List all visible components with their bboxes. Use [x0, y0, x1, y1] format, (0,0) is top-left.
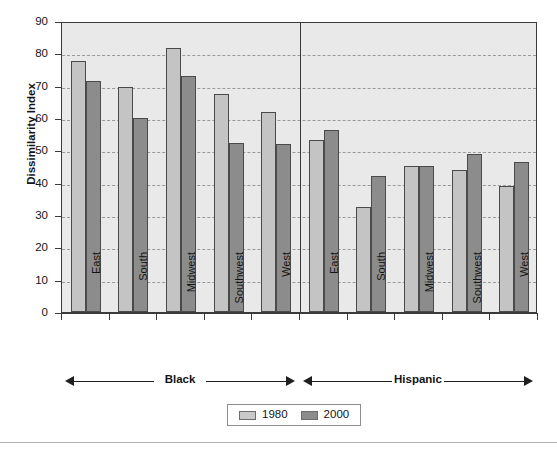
y-axis-tick-label: 10 — [8, 275, 48, 287]
arrow-right-icon — [524, 376, 533, 386]
x-axis-tick — [537, 313, 538, 320]
legend-item: 1980 — [239, 409, 288, 421]
bar-1980-south-hispanic — [356, 207, 371, 312]
bracket-line-left — [312, 381, 392, 382]
x-axis-tick — [489, 313, 490, 320]
y-axis-tick-label: 90 — [8, 16, 48, 28]
legend-label: 2000 — [324, 409, 350, 421]
x-axis-label-midwest-black: Midwest — [185, 252, 197, 322]
bar-1980-west-black — [261, 112, 276, 312]
x-axis-label-south-hispanic: South — [375, 252, 387, 322]
bar-1980-southwest-black — [214, 94, 229, 312]
y-axis-tick — [55, 216, 62, 217]
x-axis-tick — [61, 313, 62, 320]
y-axis-tick — [55, 119, 62, 120]
group-bracket-hispanic: Hispanic — [0, 372, 557, 392]
y-axis-title: Dissimilarity Index — [25, 54, 37, 214]
gridline — [62, 55, 536, 56]
y-axis-tick — [55, 54, 62, 55]
bar-1980-west-hispanic — [499, 186, 514, 312]
y-axis-tick — [55, 87, 62, 88]
bar-1980-midwest-black — [166, 48, 181, 312]
x-axis-label-east-black: East — [90, 252, 102, 322]
x-axis-tick — [347, 313, 348, 320]
y-axis-tick-label: 0 — [8, 307, 48, 319]
bracket-line-right — [444, 381, 524, 382]
chart-legend: 1980 2000 — [227, 404, 361, 426]
x-axis-label-southwest-hispanic: Southwest — [471, 252, 483, 322]
y-axis-tick — [55, 22, 62, 23]
bracket-label: Hispanic — [392, 373, 444, 385]
y-axis-tick-label: 20 — [8, 242, 48, 254]
y-axis-tick — [55, 184, 62, 185]
arrow-left-icon — [303, 376, 312, 386]
x-axis-label-southwest-black: Southwest — [233, 252, 245, 322]
y-axis-tick — [55, 281, 62, 282]
x-axis-tick — [156, 313, 157, 320]
x-axis-label-west-black: West — [280, 252, 292, 322]
legend-swatch-1980-icon — [239, 411, 256, 420]
x-axis-label-midwest-hispanic: Midwest — [423, 252, 435, 322]
x-axis-label-east-hispanic: East — [328, 252, 340, 322]
bar-1980-south-black — [118, 87, 133, 312]
x-axis-tick — [204, 313, 205, 320]
bar-1980-midwest-hispanic — [404, 166, 419, 312]
x-axis-tick — [251, 313, 252, 320]
bar-1980-east-black — [71, 61, 86, 312]
y-axis-tick — [55, 151, 62, 152]
bottom-divider — [0, 442, 557, 443]
x-axis-tick — [299, 313, 300, 320]
x-axis-tick — [109, 313, 110, 320]
bar-chart-figure: 0102030405060708090 Dissimilarity Index … — [0, 0, 557, 449]
x-axis-tick — [442, 313, 443, 320]
legend-swatch-2000-icon — [301, 411, 318, 420]
bar-1980-southwest-hispanic — [452, 170, 467, 312]
plot-area — [61, 22, 537, 313]
y-axis-tick — [55, 248, 62, 249]
group-divider — [300, 23, 301, 312]
x-axis-label-west-hispanic: West — [518, 252, 530, 322]
x-axis-label-south-black: South — [137, 252, 149, 322]
bar-1980-east-hispanic — [309, 140, 324, 312]
legend-item: 2000 — [301, 409, 350, 421]
y-axis-line — [61, 22, 62, 314]
legend-label: 1980 — [262, 409, 288, 421]
x-axis-tick — [394, 313, 395, 320]
